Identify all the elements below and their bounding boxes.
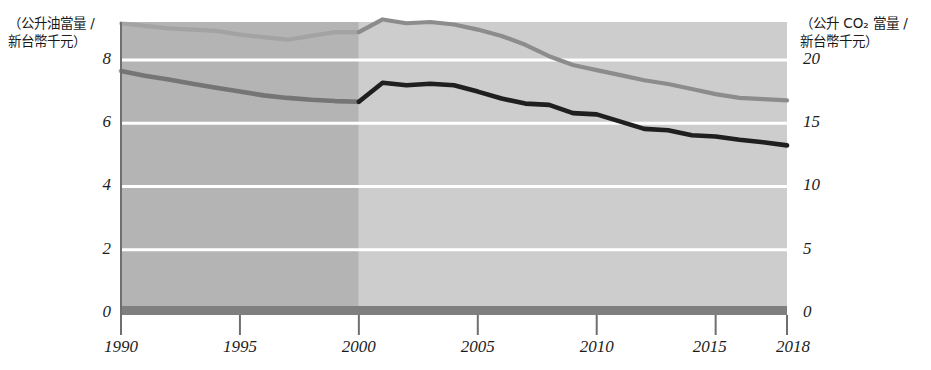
chart-plot-area <box>0 0 931 370</box>
x-axis-tick-label: 2015 <box>675 337 745 357</box>
x-axis-tick-label: 1995 <box>205 337 275 357</box>
y2-axis-tick-label: 15 <box>803 112 843 132</box>
y2-axis-tick-label: 20 <box>803 49 843 69</box>
y2-axis-tick-label: 5 <box>803 239 843 259</box>
left-axis-unit-caption: （公升油當量 / 新台幣千元） <box>8 14 118 50</box>
chart-figure: （公升油當量 / 新台幣千元） （公升 CO₂ 當量 / 新台幣千元） 8642… <box>0 0 931 370</box>
x-axis-tick-label: 2005 <box>443 337 513 357</box>
axis-baseline-band <box>121 306 787 315</box>
x-axis-tick-label: 1990 <box>86 337 156 357</box>
y2-axis-tick-label: 0 <box>803 302 843 322</box>
y-axis-tick-label: 2 <box>71 239 111 259</box>
x-axis-tick-label: 2000 <box>324 337 394 357</box>
x-axis-tick-label: 2018 <box>758 337 828 357</box>
historical-shaded-band <box>121 22 359 313</box>
y-axis-tick-label: 0 <box>71 302 111 322</box>
y-axis-tick-label: 4 <box>71 175 111 195</box>
y-axis-tick-label: 6 <box>71 112 111 132</box>
x-axis-tick-label: 2010 <box>562 337 632 357</box>
y-axis-tick-label: 8 <box>71 49 111 69</box>
y2-axis-tick-label: 10 <box>803 175 843 195</box>
right-axis-unit-caption: （公升 CO₂ 當量 / 新台幣千元） <box>800 14 930 50</box>
